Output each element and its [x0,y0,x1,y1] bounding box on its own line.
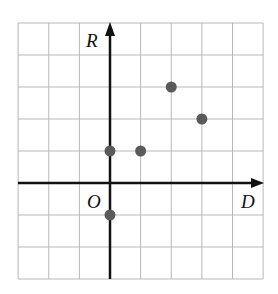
x-axis-arrow-icon [251,178,264,188]
y-axis-label: R [86,31,98,50]
scatter-plot [0,0,278,294]
data-point [166,82,177,93]
origin-label: O [87,192,101,211]
data-point [135,146,146,157]
x-axis-label: D [241,192,255,211]
y-axis-arrow-icon [105,22,115,36]
data-point [105,146,116,157]
data-point [196,114,207,125]
data-point [105,210,116,221]
